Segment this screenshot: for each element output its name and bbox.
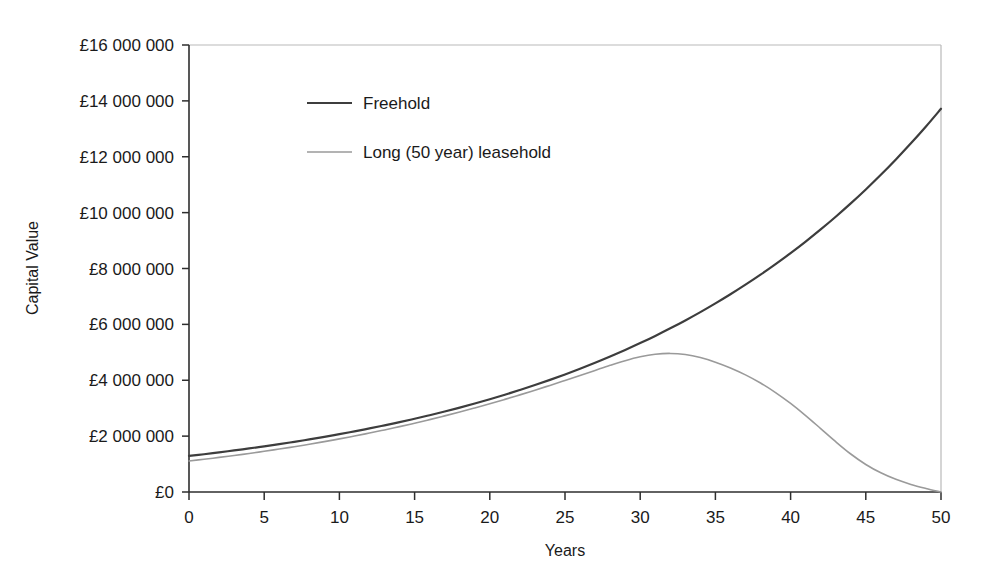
series-line-freehold [189, 109, 941, 456]
y-tick-label: £14 000 000 [79, 92, 174, 111]
y-tick-label: £2 000 000 [89, 427, 174, 446]
x-tick-label: 40 [781, 508, 800, 527]
x-tick-label: 25 [556, 508, 575, 527]
y-tick-label: £4 000 000 [89, 371, 174, 390]
axes [189, 45, 941, 492]
x-tick-label: 5 [259, 508, 268, 527]
x-axis-ticks: 05101520253035404550 [184, 492, 950, 527]
x-tick-label: 45 [856, 508, 875, 527]
chart-container: £0£2 000 000£4 000 000£6 000 000£8 000 0… [0, 0, 984, 580]
x-tick-label: 15 [405, 508, 424, 527]
y-axis-title: Capital Value [24, 221, 41, 315]
y-tick-label: £8 000 000 [89, 260, 174, 279]
series-group [189, 109, 941, 492]
y-tick-label: £12 000 000 [79, 148, 174, 167]
y-axis-ticks: £0£2 000 000£4 000 000£6 000 000£8 000 0… [79, 36, 189, 502]
x-tick-label: 10 [330, 508, 349, 527]
capital-value-line-chart: £0£2 000 000£4 000 000£6 000 000£8 000 0… [0, 0, 984, 580]
y-tick-label: £16 000 000 [79, 36, 174, 55]
y-tick-label: £10 000 000 [79, 204, 174, 223]
x-axis-title: Years [545, 542, 585, 559]
x-tick-label: 0 [184, 508, 193, 527]
y-tick-label: £6 000 000 [89, 315, 174, 334]
legend-label: Freehold [363, 94, 430, 113]
x-tick-label: 20 [480, 508, 499, 527]
x-tick-label: 30 [631, 508, 650, 527]
legend-label: Long (50 year) leasehold [363, 143, 551, 162]
chart-legend: FreeholdLong (50 year) leasehold [307, 94, 551, 162]
plot-frame [189, 45, 941, 492]
x-tick-label: 35 [706, 508, 725, 527]
x-tick-label: 50 [932, 508, 951, 527]
y-tick-label: £0 [155, 483, 174, 502]
